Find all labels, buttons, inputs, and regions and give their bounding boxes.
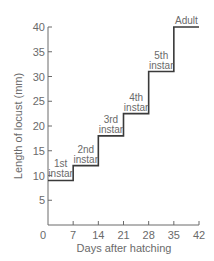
x-tick-label: 28: [143, 229, 155, 241]
x-tick-label: 7: [70, 229, 76, 241]
y-tick-label: 25: [33, 95, 45, 107]
x-tick-label: 14: [92, 229, 104, 241]
step-chart: 510152025303540071421283542 1stinstar2nd…: [0, 0, 214, 261]
instar-label: instar: [74, 154, 99, 165]
instar-label: instar: [149, 60, 174, 71]
instar-labels: 1stinstar2ndinstar3rdinstar4thinstar5thi…: [48, 15, 198, 179]
y-tick-label: 15: [33, 145, 45, 157]
y-axis-label: Length of locust (mm): [12, 73, 24, 179]
x-axis-label: Days after hatching: [77, 242, 172, 254]
x-tick-label: 35: [168, 229, 180, 241]
x-tick-label: 42: [193, 229, 205, 241]
y-tick-label: 5: [39, 194, 45, 206]
instar-label: instar: [99, 124, 124, 135]
y-tick-label: 40: [33, 21, 45, 33]
y-tick-label: 20: [33, 120, 45, 132]
y-tick-label: 35: [33, 46, 45, 58]
instar-label: instar: [48, 168, 73, 179]
x-tick-label: 0: [40, 229, 46, 241]
instar-label: Adult: [175, 15, 198, 26]
y-tick-label: 10: [33, 170, 45, 182]
y-tick-label: 30: [33, 71, 45, 83]
x-tick-label: 21: [117, 229, 129, 241]
instar-label: instar: [124, 102, 149, 113]
